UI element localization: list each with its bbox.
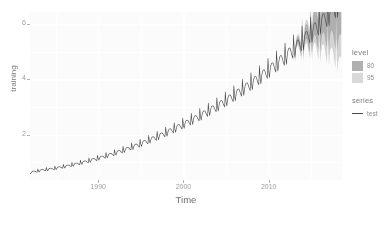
x-tick-mark	[183, 180, 184, 183]
legend-item-level-95[interactable]: 95	[352, 72, 390, 83]
x-tick-label: 2010	[249, 183, 289, 190]
x-tick-label: 2000	[163, 183, 203, 190]
x-tick-mark	[98, 180, 99, 183]
legend-swatch-95	[352, 73, 363, 83]
legend-group-series: series test	[352, 96, 390, 119]
y-tick-label: 2	[0, 130, 26, 137]
x-tick-label: 1990	[78, 183, 118, 190]
legend-item-level-80[interactable]: 80	[352, 60, 390, 71]
legend: level 80 95 series test	[352, 48, 390, 120]
legend-group-level: level 80 95	[352, 48, 390, 83]
legend-title-level: level	[352, 48, 390, 57]
forecast-chart: 246 199020002010 training Time level 80 …	[0, 0, 390, 233]
legend-swatch-80	[352, 61, 363, 71]
legend-title-series: series	[352, 96, 390, 105]
y-tick-mark	[27, 135, 30, 136]
y-tick-mark	[27, 24, 30, 25]
series-line-test	[30, 12, 342, 180]
y-tick-mark	[27, 79, 30, 80]
legend-label-80: 80	[367, 62, 374, 69]
y-axis-label: training	[9, 49, 18, 109]
legend-line-test	[352, 113, 363, 114]
plot-panel	[30, 12, 342, 180]
x-tick-mark	[269, 180, 270, 183]
legend-label-test: test	[367, 110, 377, 117]
legend-item-series-test[interactable]: test	[352, 108, 390, 119]
legend-label-95: 95	[367, 74, 374, 81]
x-axis-label: Time	[30, 194, 342, 205]
y-tick-label: 6	[0, 19, 26, 26]
